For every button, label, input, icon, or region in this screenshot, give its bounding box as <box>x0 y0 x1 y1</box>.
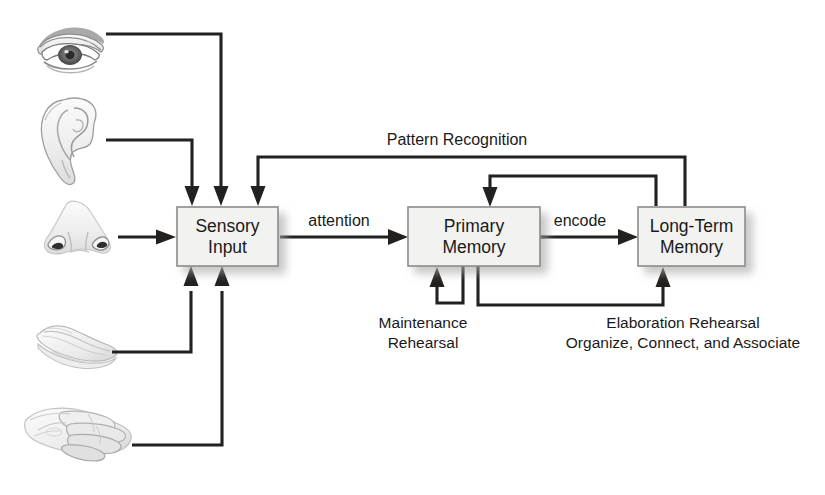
connector-tongue-to-sensory <box>112 266 199 352</box>
connector-elaboration-rehearsal <box>478 266 671 305</box>
tongue-icon <box>37 326 117 369</box>
memory-model-diagram: Sensory Input Primary Memory Long-Term M… <box>0 0 825 495</box>
connector-longterm-to-primary <box>483 176 657 207</box>
node-primary-memory[interactable]: Primary Memory <box>408 207 540 266</box>
node-long-term-memory-label-1: Long-Term <box>650 216 734 236</box>
node-sensory-input-label-2: Input <box>208 237 247 257</box>
connector-eye-to-sensory <box>106 34 229 206</box>
node-sensory-input-label-1: Sensory <box>195 216 259 236</box>
node-long-term-memory[interactable]: Long-Term Memory <box>638 207 745 266</box>
connector-hand-to-sensory <box>132 266 230 445</box>
node-long-term-memory-label-2: Memory <box>660 237 723 257</box>
connector-pattern-recognition <box>251 157 686 206</box>
node-primary-memory-label-2: Memory <box>442 237 505 257</box>
connector-maintenance-rehearsal <box>430 266 464 303</box>
caption-maintenance-line-2: Rehearsal <box>388 334 459 351</box>
node-primary-memory-label-1: Primary <box>444 216 505 236</box>
edge-label-pattern-recognition: Pattern Recognition <box>387 131 528 148</box>
connector-ear-to-sensory <box>106 140 200 206</box>
caption-elaboration-line-2: Organize, Connect, and Associate <box>566 334 800 351</box>
edge-label-attention: attention <box>308 212 369 229</box>
caption-maintenance-line-1: Maintenance <box>379 314 468 331</box>
hand-icon <box>25 408 132 461</box>
diagram-canvas: Sensory Input Primary Memory Long-Term M… <box>0 0 825 495</box>
connector-attention <box>280 229 408 245</box>
nose-icon <box>44 201 110 254</box>
edge-label-encode: encode <box>554 212 607 229</box>
node-sensory-input[interactable]: Sensory Input <box>177 207 278 266</box>
ear-icon <box>41 98 96 185</box>
caption-elaboration-line-1: Elaboration Rehearsal <box>606 314 759 331</box>
eye-icon <box>38 28 104 73</box>
connector-nose-to-sensory <box>118 230 176 245</box>
